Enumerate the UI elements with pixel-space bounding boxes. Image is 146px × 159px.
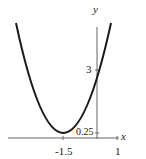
x-tick-label-minus-1-5: -1.5	[55, 146, 72, 157]
x-axis-label: x	[121, 131, 126, 142]
y-axis-label: y	[93, 4, 98, 15]
y-tick-label-3: 3	[86, 64, 92, 75]
x-tick-label-1: 1	[115, 146, 121, 157]
y-tick-label-0-25: 0.25	[76, 127, 94, 137]
